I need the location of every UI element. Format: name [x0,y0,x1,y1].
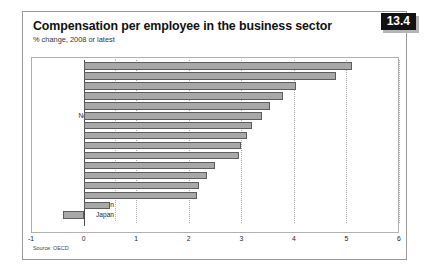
axis-tick-label: 1 [134,235,138,242]
gridline [399,60,400,223]
axis-tick-label: 0 [82,235,86,242]
bar-row [31,172,399,180]
bar-row [31,112,399,120]
bar [84,202,110,210]
axis-tick-label: 4 [292,235,296,242]
bar-row [31,211,399,219]
axis-tick-label: 5 [345,235,349,242]
axis-tick-label: 6 [397,235,401,242]
bar [63,211,84,219]
bar [84,62,352,70]
bar [84,182,200,190]
bar [84,72,336,80]
bar [84,152,239,160]
value-axis-ticks: -10123456 [31,234,399,248]
bar [84,112,263,120]
bar-row [31,102,399,110]
bar [84,132,247,140]
bar-row [31,92,399,100]
bar [84,92,284,100]
bar-row [31,72,399,80]
bar [84,142,242,150]
bar-row [31,122,399,130]
axis-tick-label: -1 [28,235,34,242]
chart-figure: 13.4 Compensation per employee in the bu… [0,0,431,280]
axis-tick-label: 2 [187,235,191,242]
chart-subtitle: % change, 2008 or latest [33,35,115,44]
bar [84,122,252,130]
page-title: Compensation per employee in the busines… [33,19,332,33]
bar [84,162,215,170]
bar-row [31,152,399,160]
bar [84,82,297,90]
bar [84,192,197,200]
source-note: Source: OECD [33,245,69,251]
plot-area: SpainDenmarkCanadaAustraliaOECDNetherlan… [31,57,399,233]
bar-row [31,192,399,200]
bar-row [31,132,399,140]
bar [84,172,208,180]
bar-row [31,202,399,210]
bar-row [31,62,399,70]
bar-row [31,182,399,190]
bar [84,102,271,110]
axis-tick-label: 3 [239,235,243,242]
bar-row [31,82,399,90]
bar-row [31,142,399,150]
bar-series [31,57,399,233]
bar-row [31,162,399,170]
chart-number-badge: 13.4 [381,13,416,30]
